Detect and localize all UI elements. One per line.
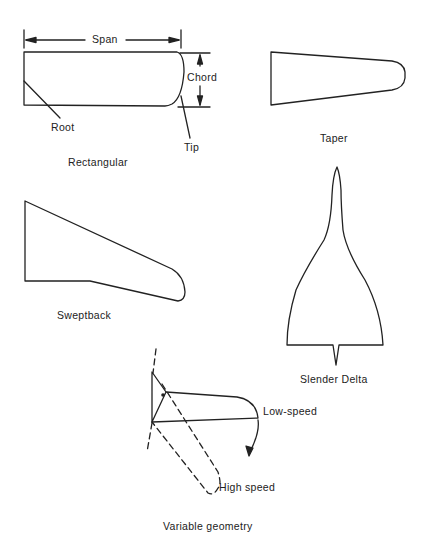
rectangular-caption: Rectangular xyxy=(68,156,128,168)
sweptback-wing xyxy=(25,201,185,301)
low-speed-label: Low-speed xyxy=(263,405,317,417)
tip-label: Tip xyxy=(184,141,199,153)
slender-delta-wing xyxy=(287,167,383,365)
sweptback-caption: Sweptback xyxy=(57,309,111,321)
span-label: Span xyxy=(92,33,118,45)
variable-geometry-caption: Variable geometry xyxy=(163,520,253,532)
high-speed-label: High speed xyxy=(219,481,275,493)
variable-geometry-wing xyxy=(147,349,258,494)
root-label: Root xyxy=(51,121,74,133)
taper-caption: Taper xyxy=(320,132,348,144)
taper-wing xyxy=(271,52,405,105)
slender-delta-caption: Slender Delta xyxy=(300,373,368,385)
chord-label: Chord xyxy=(186,71,218,83)
